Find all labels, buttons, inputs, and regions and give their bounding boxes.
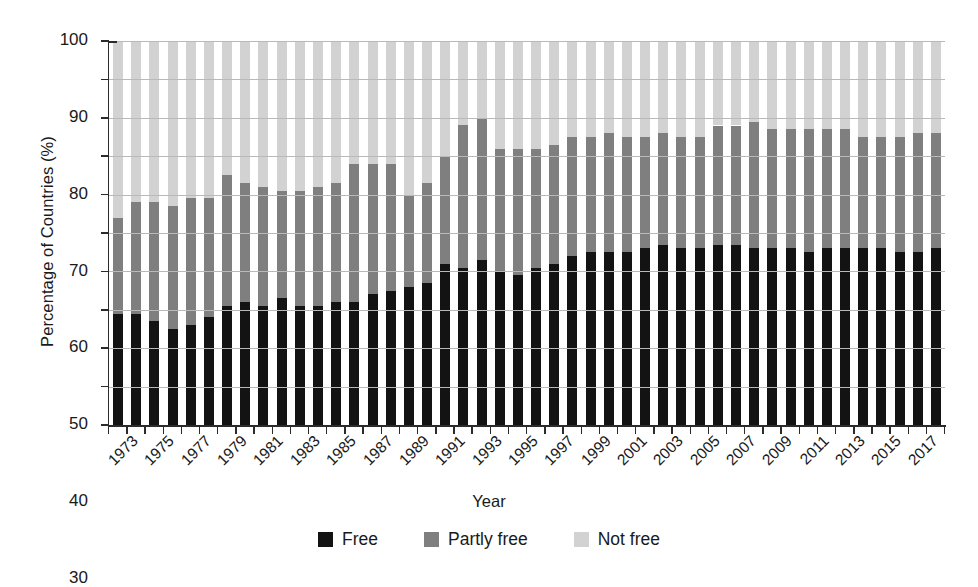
bar-segment-not-free [331, 41, 341, 183]
bar-segment-partly-free [440, 156, 450, 264]
y-axis-tick: 30 [101, 309, 109, 311]
bar-segment-free [513, 275, 523, 425]
bar-segment-free [622, 252, 632, 425]
bar-segment-free [168, 329, 178, 425]
x-axis-tick [944, 425, 945, 434]
bar-segment-partly-free [858, 137, 868, 248]
gridline [109, 79, 945, 80]
y-axis-tick: 90 [101, 79, 109, 81]
bar-segment-free [458, 268, 468, 425]
bar-segment-partly-free [531, 149, 541, 268]
bar-segment-free [858, 248, 868, 425]
legend-item[interactable]: Not free [574, 529, 660, 550]
bar-segment-partly-free [331, 183, 341, 302]
bar-segment-not-free [349, 41, 359, 164]
gridline [109, 195, 945, 196]
bar-segment-free [477, 260, 487, 425]
x-axis-tick-label: 1985 [323, 432, 360, 469]
bar-segment-partly-free [495, 149, 505, 272]
bar-segment-free [822, 248, 832, 425]
bar-segment-not-free [277, 41, 287, 191]
bar-segment-partly-free [822, 129, 832, 248]
bar-segment-not-free [422, 41, 432, 183]
bar-segment-not-free [386, 41, 396, 164]
bar-segment-partly-free [640, 137, 650, 248]
bar-segment-free [604, 252, 614, 425]
gridline [109, 41, 945, 42]
bar-segment-free [640, 248, 650, 425]
bar-segment-free [131, 314, 141, 425]
bar-segment-partly-free [240, 183, 250, 302]
x-axis-tick-label: 1993 [468, 432, 505, 469]
y-axis-tick-label: 80 [69, 184, 88, 204]
bar-segment-not-free [622, 41, 632, 137]
bar-segment-not-free [695, 41, 705, 137]
bar-segment-not-free [858, 41, 868, 137]
y-axis-tick: 70 [101, 155, 109, 157]
bar-segment-partly-free [713, 126, 723, 245]
y-axis-tick-label: 90 [69, 107, 88, 127]
bar-segment-not-free [840, 41, 850, 129]
x-axis-tick-label: 1981 [250, 432, 287, 469]
x-axis-line [108, 425, 946, 427]
bar-segment-free [840, 248, 850, 425]
x-axis-title: Year [0, 492, 978, 511]
bar-segment-partly-free [676, 137, 686, 248]
bar-segment-not-free [876, 41, 886, 137]
bar-segment-free [295, 306, 305, 425]
bar-segment-free [440, 264, 450, 425]
bar-segment-free [786, 248, 796, 425]
y-axis-tick: 20 [101, 347, 109, 349]
x-axis-tick-label: 2007 [723, 432, 760, 469]
bar-segment-free [586, 252, 596, 425]
bar-segment-not-free [786, 41, 796, 129]
x-axis-tick-label: 1995 [505, 432, 542, 469]
bar-segment-free [913, 252, 923, 425]
bar-segment-not-free [240, 41, 250, 183]
bar-segment-free [567, 256, 577, 425]
x-axis-tick-label: 2015 [868, 432, 905, 469]
bar-segment-free [368, 294, 378, 425]
bar-segment-not-free [440, 41, 450, 156]
bar-segment-not-free [258, 41, 268, 187]
y-axis-tick-label: 30 [69, 568, 88, 587]
bar-segment-not-free [204, 41, 214, 198]
x-axis-tick-label: 1983 [286, 432, 323, 469]
bar-segment-not-free [131, 41, 141, 202]
bar-segment-free [149, 321, 159, 425]
bar-segment-free [313, 306, 323, 425]
bar-segment-free [895, 252, 905, 425]
bar-segment-partly-free [931, 133, 941, 248]
legend-item[interactable]: Free [318, 529, 378, 550]
bar-segment-not-free [913, 41, 923, 133]
bar-segment-partly-free [477, 118, 487, 260]
legend-swatch [574, 532, 589, 547]
bar-segment-free [531, 268, 541, 425]
bar-segment-not-free [567, 41, 577, 137]
bar-segment-partly-free [567, 137, 577, 256]
bar-segment-not-free [895, 41, 905, 137]
legend-item[interactable]: Partly free [424, 529, 528, 550]
bar-segment-partly-free [313, 187, 323, 306]
y-axis-tick: 60 [101, 194, 109, 196]
bar-segment-not-free [931, 41, 941, 133]
bar-segment-free [186, 325, 196, 425]
bar-segment-not-free [658, 41, 668, 133]
legend-label: Free [342, 529, 378, 550]
bar-segment-not-free [458, 41, 468, 125]
bar-segment-not-free [149, 41, 159, 202]
y-axis-tick-label: 70 [69, 261, 88, 281]
bar-segment-not-free [513, 41, 523, 149]
y-axis-tick: 10 [101, 386, 109, 388]
bar-segment-not-free [113, 41, 123, 218]
bar-segment-partly-free [549, 145, 559, 264]
x-axis-tick-label: 2011 [796, 432, 832, 468]
bar-segment-free [695, 248, 705, 425]
x-axis-tick-label: 2009 [759, 432, 796, 469]
x-axis-tick-label: 1979 [214, 432, 251, 469]
bar-segment-partly-free [149, 202, 159, 321]
bar-segment-free [349, 302, 359, 425]
bar-segment-not-free [313, 41, 323, 187]
legend-swatch [318, 532, 333, 547]
x-axis-tick-label: 1987 [359, 432, 396, 469]
